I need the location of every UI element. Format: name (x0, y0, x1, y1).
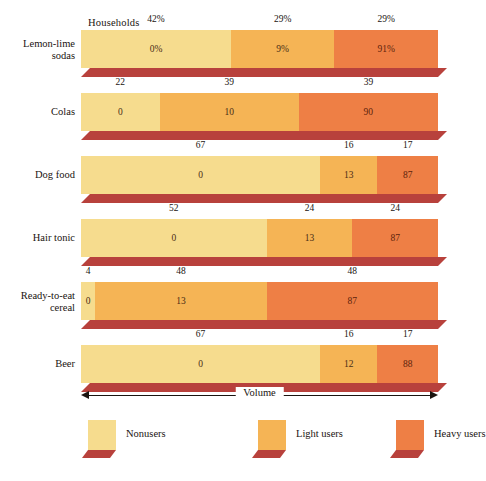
households-value: 22 (116, 77, 126, 87)
volume-value: 13 (344, 170, 354, 180)
legend-swatch (390, 420, 428, 460)
legend-item[interactable]: Heavy users (390, 420, 486, 466)
households-value: 42% (147, 14, 164, 24)
households-value-row: 42%29%29% (81, 14, 438, 28)
bar-segment-heavy-users[interactable]: 87 (267, 282, 438, 320)
legend-label: Light users (296, 428, 343, 439)
volume-value: 0 (171, 233, 176, 243)
households-value-row: 671617 (81, 140, 438, 154)
bar-base-shadow (81, 320, 447, 329)
households-value: 29% (274, 14, 291, 24)
volume-value: 0 (198, 170, 203, 180)
volume-value: 87 (403, 170, 413, 180)
households-value: 17 (403, 140, 413, 150)
category-label: Colas (0, 106, 75, 118)
bar-base-shadow (81, 194, 447, 203)
bar-segment-light-users[interactable]: 10 (160, 93, 299, 131)
bar-segment-nonusers[interactable]: 0 (81, 282, 95, 320)
arrow-left-icon (81, 391, 89, 399)
legend-item[interactable]: Nonusers (82, 420, 166, 466)
households-value: 67 (196, 329, 206, 339)
category-label: Hair tonic (0, 232, 75, 244)
category-label: Dog food (0, 169, 75, 181)
households-value-row: 223939 (81, 77, 438, 91)
bar-segment-heavy-users[interactable]: 91% (334, 30, 438, 68)
volume-value: 91% (378, 44, 395, 54)
legend-label: Heavy users (434, 428, 486, 439)
volume-value: 0 (198, 359, 203, 369)
households-value: 4 (86, 266, 91, 276)
stacked-bar[interactable]: 01387 (81, 156, 438, 194)
legend-label: Nonusers (126, 428, 166, 439)
stacked-bar[interactable]: 01387 (81, 219, 438, 257)
volume-value: 0 (118, 107, 123, 117)
bar-segment-nonusers[interactable]: 0 (81, 156, 320, 194)
households-value: 48 (348, 266, 358, 276)
chart-row: Beer67161701288 (0, 329, 461, 392)
bar-segment-light-users[interactable]: 13 (95, 282, 266, 320)
volume-value: 87 (390, 233, 400, 243)
households-value: 67 (196, 140, 206, 150)
volume-value: 13 (305, 233, 315, 243)
volume-value: 9% (276, 44, 289, 54)
bar-segment-heavy-users[interactable]: 90 (299, 93, 438, 131)
households-value: 39 (364, 77, 374, 87)
bar-segment-nonusers[interactable]: 0 (81, 219, 267, 257)
volume-value: 87 (348, 296, 358, 306)
households-value: 16 (344, 329, 354, 339)
chart-row: Colas22393901090 (0, 77, 461, 140)
households-value-row: 44848 (81, 266, 438, 280)
category-label: Beer (0, 358, 75, 370)
volume-value: 13 (176, 296, 186, 306)
legend-swatch (252, 420, 290, 460)
arrow-right-icon (430, 391, 438, 399)
households-value: 16 (344, 140, 354, 150)
households-value: 48 (176, 266, 186, 276)
bar-segment-nonusers[interactable]: 0% (81, 30, 231, 68)
volume-axis-label: Volume (235, 387, 283, 398)
stacked-bar[interactable]: 01387 (81, 282, 438, 320)
legend-item[interactable]: Light users (252, 420, 343, 466)
volume-value: 0 (86, 296, 91, 306)
households-value: 39 (224, 77, 234, 87)
stacked-bar[interactable]: 0%9%91% (81, 30, 438, 68)
chart-row: Ready-to-eat cereal4484801387 (0, 266, 461, 329)
volume-value: 0% (150, 44, 163, 54)
chart-row: Dog food67161701387 (0, 140, 461, 203)
bar-segment-light-users[interactable]: 13 (267, 219, 353, 257)
volume-value: 10 (224, 107, 234, 117)
bar-segment-nonusers[interactable]: 0 (81, 93, 160, 131)
bar-segment-light-users[interactable]: 12 (320, 345, 377, 383)
chart-row: Lemon-lime sodas42%29%29%0%9%91% (0, 14, 461, 77)
stacked-bar[interactable]: 01288 (81, 345, 438, 383)
chart-row: Hair tonic52242401387 (0, 203, 461, 266)
volume-value: 12 (344, 359, 354, 369)
volume-axis: Volume (81, 389, 438, 403)
bar-segment-light-users[interactable]: 9% (231, 30, 335, 68)
households-value: 17 (403, 329, 413, 339)
bar-segment-light-users[interactable]: 13 (320, 156, 377, 194)
bar-segment-heavy-users[interactable]: 87 (377, 156, 438, 194)
legend-swatch (82, 420, 120, 460)
households-value-row: 671617 (81, 329, 438, 343)
bar-base-shadow (81, 68, 447, 77)
bar-segment-nonusers[interactable]: 0 (81, 345, 320, 383)
bar-segment-heavy-users[interactable]: 87 (352, 219, 438, 257)
bar-base-shadow (81, 131, 447, 140)
households-value: 24 (305, 203, 315, 213)
volume-value: 90 (364, 107, 374, 117)
households-value: 52 (169, 203, 179, 213)
category-label: Ready-to-eat cereal (0, 290, 75, 313)
households-value: 29% (378, 14, 395, 24)
category-label: Lemon-lime sodas (0, 38, 75, 61)
volume-value: 88 (403, 359, 413, 369)
bar-segment-heavy-users[interactable]: 88 (377, 345, 438, 383)
households-value-row: 522424 (81, 203, 438, 217)
stacked-bar[interactable]: 01090 (81, 93, 438, 131)
bar-base-shadow (81, 257, 447, 266)
chart-legend: NonusersLight usersHeavy users (82, 420, 422, 466)
households-value: 24 (390, 203, 400, 213)
